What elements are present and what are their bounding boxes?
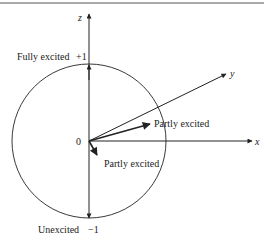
bloch-diagram: z y x 0 Fully excited +1 Unexcited −1 Pa… bbox=[0, 0, 264, 243]
minus-one-label: −1 bbox=[88, 224, 99, 235]
partly-excited-lower-label: Partly excited bbox=[104, 158, 159, 169]
y-axis bbox=[89, 74, 226, 141]
plus-one-label: +1 bbox=[76, 51, 87, 62]
y-axis-label: y bbox=[229, 68, 235, 79]
x-axis-label: x bbox=[254, 136, 260, 147]
partly-excited-lower-vector bbox=[89, 141, 97, 155]
unexcited-label: Unexcited bbox=[38, 224, 79, 235]
z-axis-label: z bbox=[77, 12, 82, 23]
partly-excited-upper-label: Partly excited bbox=[154, 118, 209, 129]
fully-excited-label: Fully excited bbox=[17, 51, 70, 62]
origin-label: 0 bbox=[76, 136, 81, 147]
